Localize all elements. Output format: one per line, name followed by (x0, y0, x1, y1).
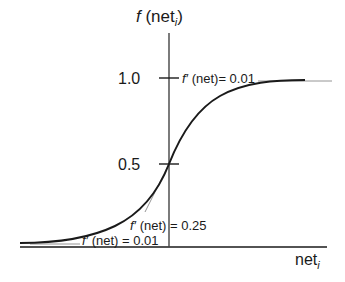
annotation-mid: f′ (net) = 0.25 (130, 218, 207, 233)
x-axis-label: neti (295, 251, 320, 271)
x-label-sub: i (317, 259, 320, 271)
tick-label-1-0: 1.0 (118, 70, 140, 87)
annotation-mid-text: (net) = 0.25 (136, 218, 206, 233)
y-label-close: ) (177, 7, 183, 26)
annotation-top-text: (net)= 0.01 (188, 71, 255, 86)
y-label-open: (net (141, 7, 175, 26)
annotation-top: f′ (net)= 0.01 (182, 71, 255, 86)
y-axis-label: f (neti) (136, 7, 183, 28)
annotation-bottom: f′ (net) = 0.01 (82, 233, 159, 248)
sigmoid-diagram: f (neti) 1.0 0.5 f′ (net)= 0.01 f′ (net)… (0, 0, 345, 282)
x-label-main: net (295, 251, 318, 268)
annotation-bottom-text: (net) = 0.01 (88, 233, 158, 248)
tick-label-0-5: 0.5 (118, 156, 140, 173)
